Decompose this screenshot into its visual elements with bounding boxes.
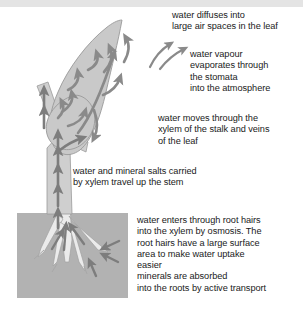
label-water-vapour-evaporates: water vapour evaporates through the stom…: [190, 49, 303, 94]
label-water-enters-root-hairs: water enters through root hairs into the…: [137, 215, 303, 294]
water-vapour-escape-arrows: [150, 44, 184, 69]
label-water-moves-through-xylem: water moves through the xylem of the sta…: [158, 113, 303, 147]
label-water-diffuses: water diffuses into large air spaces in …: [172, 10, 303, 33]
label-mineral-salts-carried: water and mineral salts carried by xylem…: [73, 166, 248, 189]
soil-block: [17, 213, 128, 298]
diagram-canvas: water diffuses into large air spaces in …: [0, 0, 303, 310]
